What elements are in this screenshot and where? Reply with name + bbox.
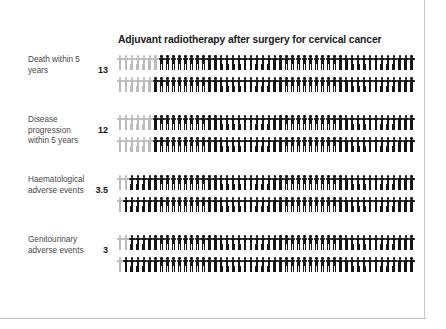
person-icon <box>409 197 415 212</box>
pictogram-icon-line <box>117 235 419 257</box>
pictogram-icon-line <box>117 137 419 159</box>
person-icon <box>409 235 415 250</box>
row-value: 3.5 <box>86 185 108 195</box>
row-value: 13 <box>86 65 108 75</box>
pictogram-row: Genitourinary adverse events3 <box>0 235 446 295</box>
infographic-page: Adjuvant radiotherapy after surgery for … <box>0 0 446 329</box>
row-value: 3 <box>86 245 108 255</box>
pictogram-icon-group <box>117 175 419 219</box>
person-icon <box>409 115 415 130</box>
pictogram-rows: Death within 5 years13Disease progressio… <box>0 55 446 295</box>
row-label: Disease progression within 5 years <box>28 115 86 147</box>
person-icon <box>409 137 415 152</box>
pictogram-icon-group <box>117 235 419 279</box>
person-icon <box>409 175 415 190</box>
pictogram-row: Disease progression within 5 years12 <box>0 115 446 175</box>
pictogram-icon-group <box>117 55 419 99</box>
pictogram-icon-line <box>117 77 419 99</box>
pictogram-row: Haematological adverse events3.5 <box>0 175 446 235</box>
chart-title: Adjuvant radiotherapy after surgery for … <box>118 34 418 46</box>
person-icon <box>409 257 415 272</box>
row-label: Haematological adverse events <box>28 175 86 196</box>
pictogram-icon-line <box>117 115 419 137</box>
pictogram-icon-line <box>117 55 419 77</box>
page-frame-bottom-rule <box>0 318 426 319</box>
pictogram-icon-line <box>117 197 419 219</box>
row-label: Death within 5 years <box>28 55 86 76</box>
pictogram-icon-line <box>117 257 419 279</box>
row-label: Genitourinary adverse events <box>28 235 86 256</box>
pictogram-icon-group <box>117 115 419 159</box>
row-value: 12 <box>86 125 108 135</box>
pictogram-row: Death within 5 years13 <box>0 55 446 115</box>
person-icon <box>409 55 415 70</box>
pictogram-icon-line <box>117 175 419 197</box>
person-icon <box>409 77 415 92</box>
